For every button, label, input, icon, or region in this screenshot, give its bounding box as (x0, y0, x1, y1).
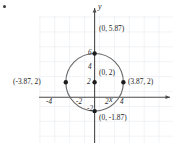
point-bottom (92, 109, 96, 113)
y-tick-pos2: 2 (87, 79, 91, 86)
graph-canvas (0, 0, 187, 150)
label-point-right: (3.87, 2) (128, 78, 153, 85)
x-tick-neg2: -2 (76, 99, 82, 106)
y-tick-pos6: 6 (88, 50, 92, 57)
y-tick-neg2: -2 (87, 106, 93, 113)
y-axis-arrow-icon (93, 8, 97, 13)
label-point-center: (0, 2) (99, 69, 115, 76)
y-tick-pos4: 4 (88, 64, 92, 71)
label-point-bottom: (0, -1.87) (99, 114, 127, 121)
coordinate-plane-figure: x y -4 -2 2 4 2 4 6 -2 (0, 5.87) (0, 2) … (0, 0, 187, 150)
x-tick-neg4: -4 (46, 99, 52, 106)
point-right (121, 80, 125, 84)
label-point-left: (-3.87, 2) (13, 78, 41, 85)
label-point-top: (0, 5.87) (99, 25, 124, 32)
x-tick-pos2: 2 (105, 99, 109, 106)
x-tick-pos4: 4 (120, 99, 124, 106)
x-axis-label: x (109, 96, 113, 104)
point-left (64, 80, 68, 84)
point-center (92, 80, 96, 84)
y-axis-label: y (98, 3, 102, 11)
point-top (92, 51, 96, 55)
